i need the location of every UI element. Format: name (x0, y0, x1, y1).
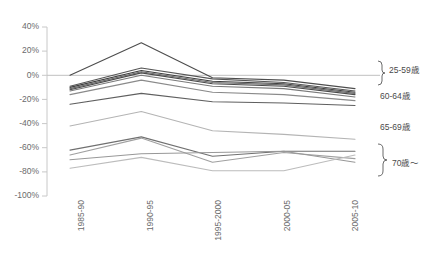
y-tick-label: -40% (19, 118, 39, 128)
legend-label-70-plus: 70歳～ (392, 158, 419, 168)
legend-label-65-69: 65-69歳 (380, 122, 411, 132)
series-line (70, 112, 355, 140)
x-tick-label: 2000-05 (282, 200, 292, 231)
legend-label-60-64: 60-64歳 (380, 91, 411, 101)
x-tick-label: 1995-2000 (213, 200, 223, 241)
series-line (70, 93, 355, 105)
y-axis-tick-labels: 40% 20% 0% -20% -40% -60% -80% -100% (14, 21, 39, 200)
y-tick-label: 40% (22, 21, 39, 31)
chart-canvas: 40% 20% 0% -20% -40% -60% -80% -100% 198… (0, 0, 428, 256)
brace-70-plus-icon (378, 144, 387, 176)
series-line (70, 155, 355, 171)
x-axis-tick-labels: 1985-90 1990-95 1995-2000 2000-05 2005-1… (76, 200, 360, 241)
legend-label-25-59: 25-59歳 (389, 65, 420, 75)
x-tick-label: 1985-90 (76, 200, 86, 231)
y-tick-label: -80% (19, 166, 39, 176)
series-line (70, 137, 355, 156)
y-tick-label: 20% (22, 45, 39, 55)
x-tick-label: 2005-10 (350, 200, 360, 231)
legend: 25-59歳 60-64歳 65-69歳 70歳～ (378, 61, 420, 176)
y-axis-ticks (42, 27, 47, 196)
y-tick-label: 0% (27, 70, 40, 80)
series-layer (70, 43, 355, 171)
y-tick-label: -60% (19, 142, 39, 152)
brace-25-59-icon (378, 61, 385, 85)
y-axis: 40% 20% 0% -20% -40% -60% -80% -100% (14, 21, 47, 200)
y-tick-label: -100% (14, 190, 39, 200)
line-chart: 40% 20% 0% -20% -40% -60% -80% -100% 198… (0, 0, 428, 256)
y-tick-label: -20% (19, 94, 39, 104)
x-tick-label: 1990-95 (145, 200, 155, 231)
